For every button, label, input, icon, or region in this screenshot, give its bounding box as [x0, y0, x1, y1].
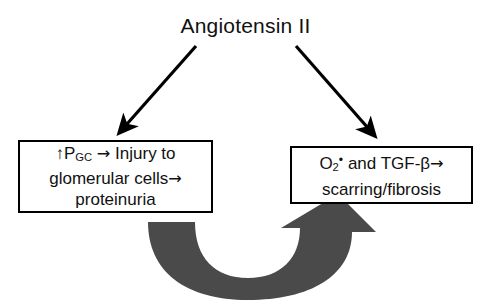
inline-arrow-icon-2: → [168, 169, 182, 188]
node-left-text: ↑PGC → Injury to glomerular cells→ prote… [45, 143, 186, 210]
arrow-to-left-box [119, 46, 196, 133]
node-box-left: ↑PGC → Injury to glomerular cells→ prote… [18, 140, 213, 213]
inline-arrow-icon-3: → [430, 154, 444, 173]
diagram-canvas: Angiotensin II ↑PGC → Injury to glomerul… [0, 0, 491, 307]
node-right-line2: scarring/fibrosis [322, 180, 441, 199]
node-left-line1: ↑PGC → Injury to [55, 144, 175, 163]
node-box-right: O2• and TGF-β→ scarring/fibrosis [290, 146, 473, 204]
node-left-line3: proteinuria [75, 190, 155, 209]
inline-arrow-icon: → [97, 144, 111, 163]
node-right-text: O2• and TGF-β→ scarring/fibrosis [315, 150, 447, 200]
node-right-line1: O2• and TGF-β→ [319, 154, 443, 173]
page-title: Angiotensin II [0, 13, 491, 39]
subscript-gc: GC [75, 151, 92, 163]
arrow-to-right-box [296, 46, 375, 136]
node-left-line2: glomerular cells [49, 169, 168, 188]
